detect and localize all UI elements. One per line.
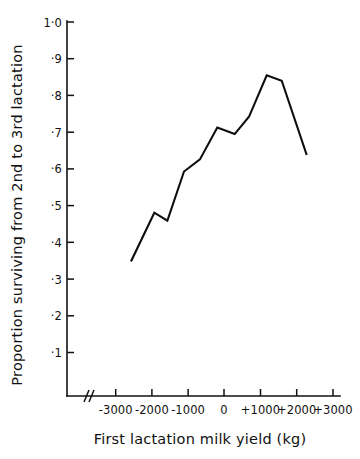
x-tick-label: +1000 — [241, 403, 280, 417]
x-tick-label: -3000 — [99, 403, 133, 417]
y-tick-label: ·8 — [51, 89, 62, 103]
x-axis-title: First lactation milk yield (kg) — [94, 431, 307, 447]
x-tick-label: +3000 — [313, 403, 352, 417]
x-tick-label: -2000 — [135, 403, 169, 417]
chart-figure: 1·0 ·9 ·8 ·7 ·6 ·5 ·4 ·3 ·2 ·1 -3000 -20… — [0, 0, 360, 459]
y-axis-ticks — [67, 22, 74, 353]
y-tick-label: ·9 — [51, 52, 62, 66]
y-tick-label: ·4 — [51, 236, 62, 250]
data-series-line — [131, 75, 307, 261]
y-tick-label: ·6 — [51, 162, 62, 176]
chart-canvas: 1·0 ·9 ·8 ·7 ·6 ·5 ·4 ·3 ·2 ·1 -3000 -20… — [0, 0, 360, 459]
y-tick-label: ·2 — [51, 309, 62, 323]
y-axis-title: Proportion surviving from 2nd to 3rd lac… — [9, 44, 25, 385]
x-tick-label: +2000 — [277, 403, 316, 417]
y-axis-tick-labels: 1·0 ·9 ·8 ·7 ·6 ·5 ·4 ·3 ·2 ·1 — [43, 16, 62, 361]
y-tick-label: ·5 — [51, 199, 62, 213]
x-axis-ticks — [116, 389, 333, 396]
x-tick-label: 0 — [220, 403, 227, 417]
y-tick-label: ·7 — [51, 126, 62, 140]
y-tick-label: ·3 — [51, 273, 62, 287]
y-tick-label: ·1 — [51, 346, 62, 360]
y-tick-label: 1·0 — [43, 16, 62, 30]
x-tick-label: -1000 — [171, 403, 205, 417]
x-axis-tick-labels: -3000 -2000 -1000 0 +1000 +2000 +3000 — [99, 403, 353, 417]
